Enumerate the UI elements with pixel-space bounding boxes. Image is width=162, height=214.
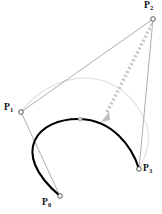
control-point-label-p0: P0	[42, 198, 51, 208]
label-sub-p1: 1	[10, 106, 13, 113]
label-text-p0: P	[42, 197, 48, 207]
control-point-marker-p1[interactable]	[19, 110, 24, 115]
drag-arrow[interactable]	[101, 24, 152, 122]
cubic-bezier-curve	[32, 119, 139, 196]
label-sub-p3: 3	[149, 167, 152, 174]
control-polygon	[21, 19, 153, 196]
segment-p1-p2	[21, 19, 153, 112]
label-text-p1: P	[4, 102, 10, 112]
label-sub-p2: 2	[150, 4, 153, 11]
curve-midpoint-handle[interactable]	[78, 117, 82, 121]
diagram-canvas	[0, 0, 162, 214]
bezier-diagram: P0 P1 P2 P3	[0, 0, 162, 214]
label-text-p3: P	[143, 163, 149, 173]
control-point-label-p3: P3	[143, 164, 152, 174]
label-text-p2: P	[144, 0, 150, 10]
segment-p0-p1	[21, 112, 60, 196]
ghost-bezier-curve	[21, 78, 148, 169]
drag-arrow-head	[101, 112, 110, 122]
control-point-marker-p3[interactable]	[137, 167, 142, 172]
segment-p2-p3	[139, 19, 153, 169]
control-point-marker-p0[interactable]	[58, 194, 63, 199]
label-sub-p0: 0	[48, 201, 51, 208]
control-point-label-p2: P2	[144, 1, 153, 11]
control-point-label-p1: P1	[4, 103, 13, 113]
control-point-marker-p2[interactable]	[151, 17, 156, 22]
